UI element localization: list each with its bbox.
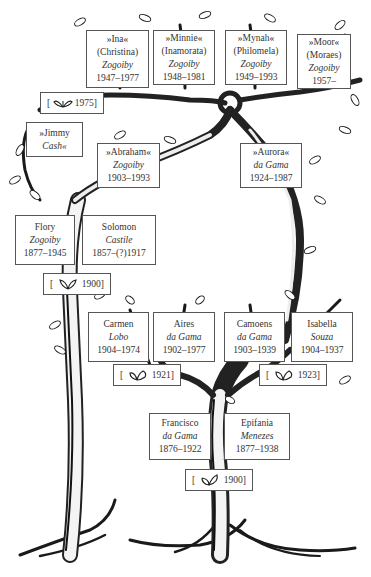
person-name: »Mynah«	[238, 32, 274, 45]
person-name: Isabella	[307, 318, 337, 331]
person-dates: 1877–1938	[236, 443, 279, 456]
leaves-icon	[200, 474, 220, 486]
bracket-open: [	[47, 98, 50, 108]
person-surname: Lobo	[109, 331, 129, 344]
leaves-icon	[53, 97, 73, 109]
person-dates: 1924–1987	[250, 172, 293, 185]
person-surname: Zogoiby	[29, 234, 60, 247]
person-carmen: Carmen Lobo 1904–1974	[88, 312, 149, 362]
person-dates: 1902–1977	[163, 344, 206, 357]
person-surname: Castile	[106, 234, 133, 247]
bracket-open: [	[120, 370, 123, 380]
person-abraham: »Abraham« Zogoiby 1903–1993	[97, 143, 160, 188]
person-nickname: (Inamorata)	[162, 45, 207, 58]
person-surname: Menezes	[241, 430, 274, 443]
bracket-open: [	[192, 475, 195, 485]
person-name: »Aurora«	[253, 146, 289, 159]
person-surname: Zogoiby	[240, 58, 271, 71]
person-name: Epifania	[241, 417, 273, 430]
person-nickname: (Christina)	[97, 46, 138, 59]
bracket-open: [	[266, 370, 269, 380]
marriage-year: 1921]	[152, 370, 174, 380]
person-camoens: Camoens da Gama 1903–1939	[224, 312, 285, 362]
person-minnie: »Minnie« (Inamorata) Zogoiby 1948–1981	[153, 30, 215, 85]
person-name: »Abraham«	[106, 146, 151, 159]
marriage-year: 1900]	[82, 279, 104, 289]
person-surname: Zogoiby	[308, 62, 339, 75]
person-surname: da Gama	[166, 331, 201, 344]
person-isabella: Isabella Souza 1904–1937	[291, 312, 353, 362]
person-dates: 1957–	[312, 75, 336, 88]
person-dates: 1857–(?)1917	[92, 247, 145, 260]
person-name: Camoens	[237, 318, 272, 331]
marriage-year: 1975]	[75, 98, 97, 108]
person-dates: 1903–1939	[233, 344, 276, 357]
person-surname: da Gama	[253, 159, 288, 172]
person-flory: Flory Zogoiby 1877–1945	[15, 215, 75, 265]
person-name: Francisco	[162, 417, 199, 430]
person-jimmy-cash: »Jimmy Cash«	[26, 122, 83, 157]
person-surname: Zogoiby	[102, 59, 133, 72]
person-name: »Jimmy	[39, 127, 70, 140]
person-dates: 1903–1993	[107, 172, 150, 185]
person-dates: 1948–1981	[163, 71, 206, 84]
person-nickname: (Philomela)	[234, 45, 279, 58]
person-moor: »Moor« (Moraes) Zogoiby 1957–	[297, 34, 351, 89]
person-name: Aires	[174, 318, 195, 331]
marriage-year: 1923]	[298, 370, 320, 380]
person-aurora: »Aurora« da Gama 1924–1987	[240, 143, 302, 188]
person-epifania: Epifania Menezes 1877–1938	[224, 413, 290, 460]
marriage-francisco-epifania: [ 1900]	[185, 469, 253, 491]
marriage-year: 1900]	[224, 475, 246, 485]
person-ina: »Ina« (Christina) Zogoiby 1947–1977	[86, 30, 149, 88]
person-name: Solomon	[102, 221, 136, 234]
marriage-ina-jimmy: [ 1975]	[40, 92, 104, 114]
person-surname: Zogoiby	[113, 159, 144, 172]
person-dates: 1904–1974	[97, 344, 140, 357]
bracket-open: [	[50, 279, 53, 289]
marriage-camoens-isabella: [ 1923]	[259, 364, 327, 386]
person-dates: 1947–1977	[96, 72, 139, 85]
person-surname: Zogoiby	[168, 58, 199, 71]
person-surname: Souza	[311, 331, 334, 344]
person-mynah: »Mynah« (Philomela) Zogoiby 1949–1993	[225, 30, 287, 85]
person-nickname: (Moraes)	[307, 49, 342, 62]
person-name: Carmen	[103, 318, 133, 331]
person-dates: 1876–1922	[159, 443, 202, 456]
person-dates: 1949–1993	[235, 71, 278, 84]
person-surname: Cash«	[42, 140, 66, 153]
person-name: »Ina«	[107, 33, 129, 46]
person-surname: da Gama	[162, 430, 197, 443]
person-name: »Minnie«	[166, 32, 203, 45]
marriage-flory-solomon: [ 1900]	[43, 273, 111, 295]
leaves-icon	[128, 369, 148, 381]
person-name: Flory	[35, 221, 56, 234]
leaves-icon	[58, 278, 78, 290]
person-name: »Moor«	[309, 36, 340, 49]
person-surname: da Gama	[237, 331, 272, 344]
person-aires: Aires da Gama 1902–1977	[153, 312, 215, 362]
marriage-carmen-aires: [ 1921]	[113, 364, 181, 386]
person-dates: 1904–1937	[301, 344, 344, 357]
person-francisco: Francisco da Gama 1876–1922	[149, 413, 211, 460]
leaves-icon	[274, 369, 294, 381]
person-solomon: Solomon Castile 1857–(?)1917	[82, 215, 156, 265]
person-dates: 1877–1945	[24, 247, 67, 260]
